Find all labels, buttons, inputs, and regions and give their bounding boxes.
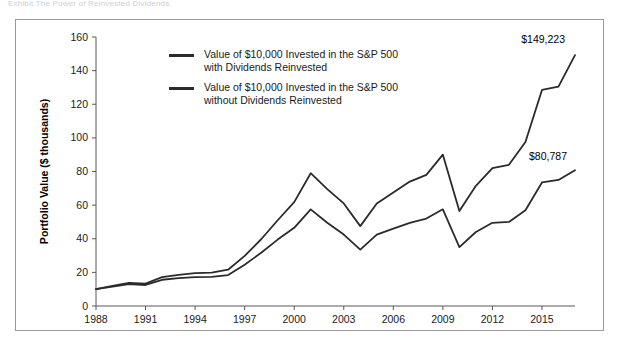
legend-item-with-dividends: Value of $10,000 Invested in the S&P 500… (169, 48, 469, 74)
x-axis-tick-label: 1991 (134, 313, 158, 325)
legend-swatch-without-dividends (169, 87, 194, 90)
annotation-with-dividends: $149,223 (521, 33, 565, 45)
series-line-without-dividends (96, 170, 575, 289)
y-axis-title: Portfolio Value ($ thousands) (38, 99, 50, 244)
y-axis-tick-label: 0 (82, 300, 88, 312)
x-axis-tick-label: 1988 (84, 313, 108, 325)
x-axis-tick-label: 1997 (233, 313, 257, 325)
y-axis-tick-label: 20 (76, 266, 88, 278)
legend-item-without-dividends: Value of $10,000 Invested in the S&P 500… (169, 81, 469, 107)
y-axis-tick-label: 40 (76, 232, 88, 244)
chart-legend: Value of $10,000 Invested in the S&P 500… (169, 48, 469, 114)
y-axis-tick-label: 160 (70, 31, 88, 43)
y-axis-tick-label: 140 (70, 64, 88, 76)
x-axis-tick-label: 2009 (431, 313, 455, 325)
legend-label-with-dividends: Value of $10,000 Invested in the S&P 500… (204, 48, 398, 74)
y-axis-tick-label: 120 (70, 98, 88, 110)
y-axis-tick-label: 100 (70, 131, 88, 143)
legend-label-without-dividends: Value of $10,000 Invested in the S&P 500… (204, 81, 398, 107)
y-axis-tick-label: 60 (76, 199, 88, 211)
figure-page: Exhibit The Power of Reinvested Dividend… (0, 0, 620, 354)
x-axis-tick-label: 2000 (283, 313, 307, 325)
x-axis-tick-label: 2003 (332, 313, 356, 325)
y-axis-tick-label: 80 (76, 165, 88, 177)
annotation-without-dividends: $80,787 (529, 150, 567, 162)
legend-swatch-with-dividends (169, 54, 194, 57)
x-axis-tick-label: 2015 (530, 313, 554, 325)
figure-frame: 0204060801001201401601988199119941997200… (15, 19, 604, 331)
x-axis-tick-label: 2006 (382, 313, 406, 325)
clipped-caption-sliver: Exhibit The Power of Reinvested Dividend… (8, 0, 608, 6)
chart-annotations-group: $149,223$80,787 (521, 33, 567, 162)
x-axis-tick-label: 2012 (481, 313, 505, 325)
x-axis-tick-label: 1994 (183, 313, 207, 325)
y-axis-title-group: Portfolio Value ($ thousands) (38, 99, 50, 244)
